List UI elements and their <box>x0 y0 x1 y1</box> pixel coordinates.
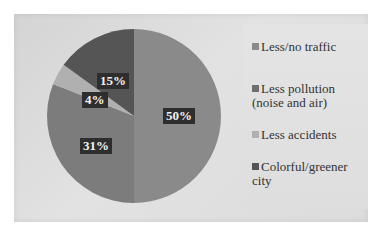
legend-item: Colorful/greener city <box>252 160 367 188</box>
legend-item: Less/no traffic <box>252 40 367 54</box>
slice-value-label: 15% <box>97 73 129 89</box>
legend-label: Less/no traffic <box>261 39 336 54</box>
legend-label: Colorful/greener city <box>252 159 348 188</box>
legend-item: Less accidents <box>252 128 367 142</box>
legend-swatch-icon <box>252 131 259 138</box>
legend-item: Less pollution (noise and air) <box>252 82 367 110</box>
legend-swatch-icon <box>252 85 259 92</box>
slice-value-label: 4% <box>82 92 108 108</box>
legend-swatch-icon <box>252 163 259 170</box>
slice-value-label: 31% <box>80 138 112 154</box>
legend-swatch-icon <box>252 43 259 50</box>
slice-value-label: 50% <box>163 108 195 124</box>
legend-label: Less accidents <box>261 127 336 142</box>
legend-label: Less pollution (noise and air) <box>252 81 335 110</box>
